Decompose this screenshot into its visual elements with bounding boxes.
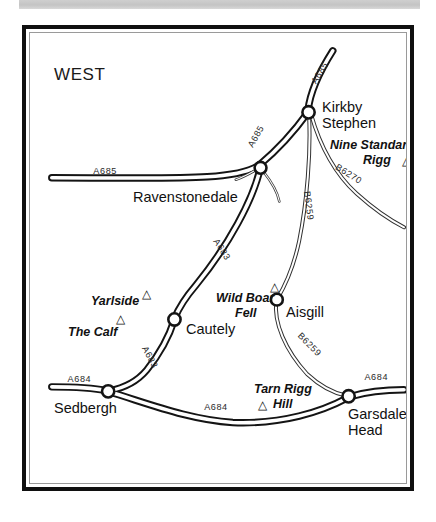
junction-ravenstonedale — [255, 162, 267, 174]
town-label-aisgill: Aisgill — [286, 305, 324, 321]
hill-label-tarn-rigg-hill-line1: Tarn Rigg — [254, 383, 312, 397]
junction-sedbergh — [102, 385, 114, 397]
junction-kirkby-stephen — [302, 106, 314, 118]
hill-marker-yarlside: △ — [142, 288, 151, 300]
junction-cautely — [168, 313, 180, 325]
hill-marker-nine-standards-rigg: △ — [402, 155, 407, 167]
town-label-kirkby-stephen-line1: Kirkby — [322, 100, 362, 116]
road-label-a685-west: A685 — [93, 166, 117, 176]
road-label-a685-north: A685 — [309, 60, 330, 85]
road-label-a684-east: A684 — [364, 372, 388, 382]
junction-garsdale-head — [342, 390, 354, 402]
hill-marker-wild-boar-fell: △ — [270, 281, 279, 293]
town-label-cautely: Cautely — [186, 322, 235, 338]
town-label-garsdale-head-line2: Head — [348, 423, 383, 439]
road-label-a684-south: A684 — [204, 402, 228, 412]
road-a685-west — [52, 112, 308, 178]
hill-label-nine-standards-rigg-line1: Nine Standards — [330, 139, 407, 153]
town-label-kirkby-stephen-line2: Stephen — [322, 116, 376, 132]
town-label-garsdale-head-line1: Garsdale — [348, 407, 407, 423]
map-canvas: .major-casing { fill:none; stroke:#14141… — [29, 32, 407, 484]
hill-label-nine-standards-rigg-line2: Rigg — [363, 154, 391, 168]
road-label-b6259-lower: B6259 — [296, 331, 324, 359]
top-decorative-bar — [19, 0, 420, 9]
spur-ravenstonedale-south — [264, 172, 280, 202]
orientation-heading: WEST — [54, 66, 106, 84]
hill-label-wild-boar-fell-line1: Wild Boar — [216, 292, 274, 306]
road-label-a685-mid: A685 — [246, 123, 266, 149]
town-label-sedbergh: Sedbergh — [54, 401, 117, 417]
town-label-ravenstonedale: Ravenstonedale — [133, 190, 238, 206]
hill-label-yarlside: Yarlside — [91, 295, 139, 309]
road-a683-lower — [109, 319, 174, 390]
map-frame: .major-casing { fill:none; stroke:#14141… — [22, 25, 414, 491]
hill-label-wild-boar-fell-line2: Fell — [235, 307, 257, 321]
map-page: .major-casing { fill:none; stroke:#14141… — [0, 0, 436, 522]
hill-label-the-calf: The Calf — [68, 326, 117, 340]
hill-marker-tarn-rigg-hill: △ — [258, 399, 267, 411]
hill-label-tarn-rigg-hill-line2: Hill — [273, 398, 292, 412]
hill-marker-the-calf: △ — [116, 313, 125, 325]
road-label-a684-west: A684 — [68, 374, 92, 384]
